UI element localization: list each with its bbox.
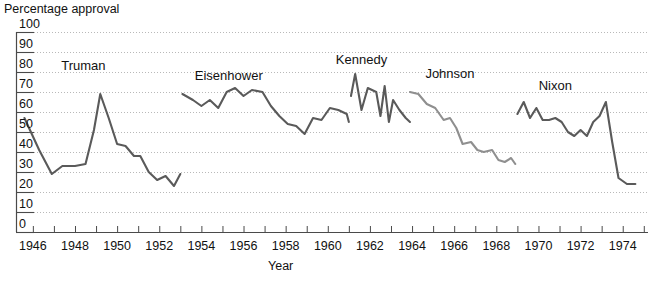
- y-tick-label: 70: [19, 78, 33, 91]
- y-tick-label: 40: [19, 138, 33, 151]
- series-line-johnson: [410, 92, 515, 164]
- x-tick-label: 1972: [567, 240, 595, 253]
- x-tick-label: 1962: [356, 240, 384, 253]
- series-annotation-johnson: Johnson: [425, 67, 474, 81]
- y-tick-label: 90: [19, 38, 33, 51]
- y-tick-label: 20: [19, 178, 33, 191]
- x-tick-label: 1966: [440, 240, 468, 253]
- series-annotation-kennedy: Kennedy: [336, 53, 387, 67]
- y-tick-label: 80: [19, 58, 33, 71]
- y-tick-label: 0: [19, 218, 26, 231]
- series-line-kennedy: [351, 74, 410, 122]
- series-line-eisenhower: [182, 88, 348, 134]
- x-tick-label: 1970: [525, 240, 553, 253]
- y-tick-label: 100: [19, 18, 40, 31]
- x-tick-label: 1958: [272, 240, 300, 253]
- y-tick-label: 50: [19, 118, 33, 131]
- series-annotation-nixon: Nixon: [539, 79, 572, 93]
- x-tick-label: 1950: [103, 240, 131, 253]
- y-tick-label: 60: [19, 98, 33, 111]
- x-tick-label: 1974: [609, 240, 637, 253]
- x-tick-label: 1964: [398, 240, 426, 253]
- series-annotation-eisenhower: Eisenhower: [195, 69, 263, 83]
- x-tick-label: 1956: [230, 240, 258, 253]
- y-tick-label: 10: [19, 198, 33, 211]
- series-line-truman: [24, 94, 180, 186]
- x-tick-label: 1954: [187, 240, 215, 253]
- series-annotation-truman: Truman: [61, 59, 105, 73]
- x-tick-label: 1968: [482, 240, 510, 253]
- y-tick-label: 30: [19, 158, 33, 171]
- x-tick-label: 1960: [314, 240, 342, 253]
- approval-ratings-chart: Percentage approval Year 010203040506070…: [0, 0, 651, 281]
- x-tick-label: 1948: [61, 240, 89, 253]
- x-tick-label: 1946: [19, 240, 47, 253]
- series-line-nixon: [517, 102, 635, 184]
- x-tick-label: 1952: [145, 240, 173, 253]
